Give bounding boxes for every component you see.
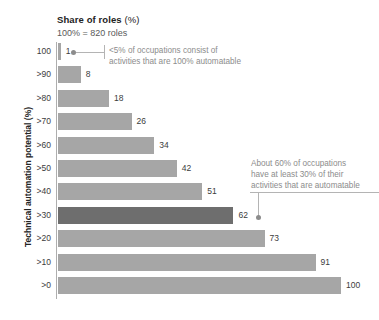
y-axis-tick-label: >10: [18, 257, 51, 267]
chart-header: Share of roles (%) 100% = 820 roles: [57, 14, 357, 39]
y-axis-tick-label: >0: [18, 280, 51, 290]
bar-value-label: 34: [159, 140, 168, 150]
bar-value-label: 8: [86, 69, 91, 79]
y-axis-tick-label: >20: [18, 233, 51, 243]
bar: [58, 277, 341, 294]
y-axis-tick-label: >40: [18, 186, 51, 196]
bar-row: >3062: [0, 207, 379, 224]
bar-chart: Share of roles (%) 100% = 820 roles Tech…: [0, 0, 379, 320]
bar: [58, 230, 265, 247]
bar-row: >2073: [0, 230, 379, 247]
annotation-top-leader-line: [76, 52, 104, 53]
bar: [58, 254, 316, 271]
y-axis-tick-label: >50: [18, 163, 51, 173]
bar: [58, 90, 109, 107]
bar-value-label: 62: [238, 210, 247, 220]
annotation-top-line-1: <5% of occupations consist of: [109, 45, 218, 56]
bar: [58, 160, 177, 177]
annotation-mid-rule: [250, 192, 379, 193]
bar: [58, 183, 202, 200]
bar-value-label: 26: [137, 116, 146, 126]
y-axis-tick-label: >90: [18, 69, 51, 79]
y-axis-tick-label: 100: [18, 46, 51, 56]
bar-row: >8018: [0, 90, 379, 107]
chart-subtitle: 100% = 820 roles: [57, 27, 357, 39]
bar-row: >0100: [0, 277, 379, 294]
chart-title-main: Share of roles: [57, 14, 122, 25]
bar-value-label: 1: [66, 46, 71, 56]
bar-value-label: 51: [207, 186, 216, 196]
bar-row: >6034: [0, 137, 379, 154]
bar: [58, 43, 61, 60]
bar: [58, 113, 132, 130]
bar-value-label: 73: [270, 233, 279, 243]
annotation-mid-line-1: About 60% of occupations: [251, 158, 346, 169]
bar-highlight: [58, 207, 233, 224]
annotation-mid-line-2: have at least 30% of their: [251, 169, 343, 180]
bar-row: >7026: [0, 113, 379, 130]
annotation-mid-dot: [256, 215, 261, 220]
chart-title: Share of roles (%): [57, 14, 357, 26]
bar: [58, 137, 154, 154]
y-axis-tick-label: >80: [18, 93, 51, 103]
bar: [58, 66, 81, 83]
y-axis-tick-label: >30: [18, 210, 51, 220]
bar-row: >1091: [0, 254, 379, 271]
bar-row: >908: [0, 66, 379, 83]
annotation-mid-line-3: activities that are automatable: [251, 180, 360, 191]
chart-title-unit: (%): [125, 14, 140, 25]
y-axis-tick-label: >70: [18, 116, 51, 126]
annotation-top-tick: [104, 45, 105, 59]
y-axis-tick-label: >60: [18, 140, 51, 150]
bar-value-label: 42: [182, 163, 191, 173]
annotation-mid-leader-line: [258, 192, 259, 216]
bar-value-label: 91: [321, 257, 330, 267]
bar-value-label: 100: [346, 280, 360, 290]
bar-value-label: 18: [114, 93, 123, 103]
annotation-top-line-2: activities that are 100% automatable: [109, 56, 241, 67]
